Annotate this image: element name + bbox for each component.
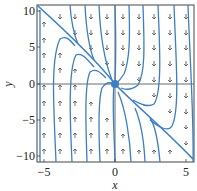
y-tick-label: −10	[16, 149, 35, 163]
y-tick-label: −5	[22, 113, 35, 127]
x-tick-label: 5	[183, 165, 189, 179]
equilibrium-point	[111, 80, 119, 88]
down-arrows	[58, 14, 188, 145]
x-axis-label: x	[111, 178, 118, 191]
x-tick-label: −5	[38, 165, 51, 179]
up-arrows	[42, 22, 172, 154]
y-tick-label: 5	[29, 40, 35, 54]
y-tick-label: 0	[29, 77, 35, 91]
ticks	[37, 11, 186, 162]
y-tick-label: 10	[23, 4, 35, 18]
x-tick-label: 0	[112, 165, 118, 179]
y-axis-label: y	[1, 81, 15, 88]
phase-portrait-chart: −5 0 5 10 5 0 −5 −10 x y	[0, 0, 197, 191]
